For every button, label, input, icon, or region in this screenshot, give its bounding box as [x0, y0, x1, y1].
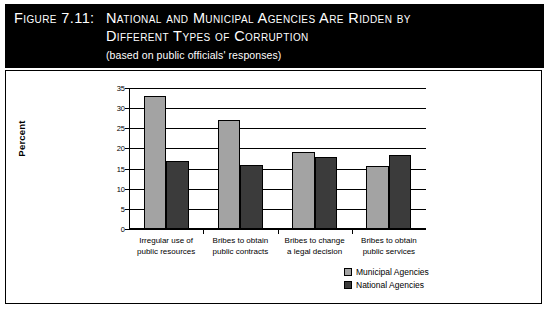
x-tick-mark	[203, 229, 204, 234]
figure-header-band: Figure 7.11: National and Municipal Agen…	[5, 4, 544, 68]
legend-label: Municipal Agencies	[356, 267, 429, 277]
legend-item[interactable]: National Agencies	[344, 280, 429, 290]
x-tick-mark	[278, 229, 279, 234]
bar-group	[218, 88, 263, 229]
bar	[292, 152, 315, 229]
bar	[166, 161, 189, 229]
y-tick-mark	[125, 209, 129, 210]
figure-number-label: Figure 7.11:	[14, 10, 95, 26]
bar	[218, 120, 241, 229]
y-tick-label: 10	[117, 184, 125, 193]
bar	[240, 165, 263, 229]
bar	[366, 166, 389, 229]
y-tick-mark	[125, 108, 129, 109]
y-tick-label: 25	[117, 124, 125, 133]
bar-group	[292, 88, 337, 229]
legend-item[interactable]: Municipal Agencies	[344, 267, 429, 277]
bar	[315, 157, 338, 229]
figure-title-line-1: National and Municipal Agencies Are Ridd…	[106, 10, 411, 26]
x-category-label-line: Bribes to obtain	[341, 236, 437, 247]
x-tick-mark	[352, 229, 353, 234]
bar	[144, 96, 167, 229]
x-category-label-line: public services	[341, 247, 437, 258]
y-tick-label: 30	[117, 104, 125, 113]
y-tick-label: 15	[117, 164, 125, 173]
legend-swatch-icon	[344, 268, 352, 276]
chart-legend: Municipal AgenciesNational Agencies	[344, 267, 429, 293]
y-tick-mark	[125, 169, 129, 170]
x-category-label: Bribes to obtainpublic services	[341, 236, 437, 257]
figure-title-line-2: Different Types of Corruption	[106, 28, 309, 44]
figure-container: Figure 7.11: National and Municipal Agen…	[0, 0, 549, 321]
chart-panel: Percent 05101520253035 Irregular use ofp…	[5, 70, 542, 304]
legend-swatch-icon	[344, 281, 352, 289]
y-tick-mark	[125, 189, 129, 190]
y-tick-label: 35	[117, 84, 125, 93]
legend-label: National Agencies	[356, 280, 424, 290]
y-tick-label: 20	[117, 144, 125, 153]
y-axis-title: Percent	[16, 109, 27, 169]
y-tick-mark	[125, 229, 129, 230]
y-tick-mark	[125, 148, 129, 149]
plot-area: 05101520253035 Irregular use ofpublic re…	[129, 88, 426, 229]
bar-group	[366, 88, 411, 229]
bar-group	[144, 88, 189, 229]
figure-subtitle: (based on public officials' responses)	[106, 49, 281, 61]
bar	[389, 155, 412, 229]
y-tick-mark	[125, 128, 129, 129]
y-tick-mark	[125, 88, 129, 89]
